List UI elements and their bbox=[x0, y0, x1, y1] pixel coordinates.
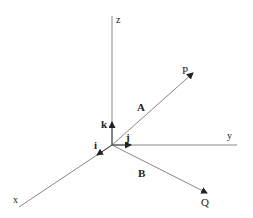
diagram-canvas: z y x k j i A B P Q bbox=[0, 0, 253, 218]
vector-b-arrow bbox=[112, 145, 207, 193]
vector-diagram: z y x k j i A B P Q bbox=[0, 0, 253, 218]
unit-vector-i-arrow bbox=[97, 145, 112, 155]
point-p-label: P bbox=[182, 64, 188, 76]
vector-b-label: B bbox=[138, 167, 146, 179]
vector-a-label: A bbox=[137, 101, 145, 113]
vector-a-arrow bbox=[112, 73, 193, 145]
x-axis-label: x bbox=[13, 194, 18, 205]
unit-vector-k-label: k bbox=[101, 118, 108, 130]
z-axis-label: z bbox=[116, 14, 121, 25]
unit-vector-i-label: i bbox=[94, 139, 97, 151]
y-axis-label: y bbox=[227, 130, 232, 141]
unit-vector-j-label: j bbox=[125, 131, 130, 143]
point-q-label: Q bbox=[201, 196, 209, 208]
